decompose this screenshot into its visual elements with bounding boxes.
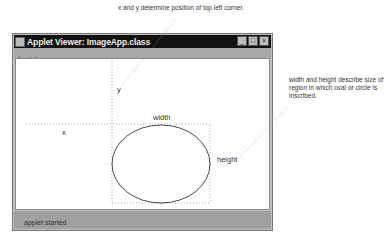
label-width: width	[153, 113, 171, 122]
diagram-overlay	[0, 0, 390, 244]
leader-top	[120, 20, 175, 88]
leader-right	[240, 108, 287, 157]
label-height: height	[217, 155, 237, 164]
label-y: y	[117, 85, 121, 94]
label-x: x	[62, 128, 66, 137]
oval-shape	[112, 125, 210, 203]
